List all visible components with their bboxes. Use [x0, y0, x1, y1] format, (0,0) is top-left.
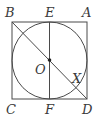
label-x: X — [71, 71, 82, 86]
label-c: C — [6, 102, 16, 117]
label-f: F — [44, 102, 55, 117]
center-point-o — [48, 58, 52, 62]
label-o: O — [35, 62, 46, 77]
geometry-diagram: B E A C F D O X — [0, 0, 97, 123]
label-a: A — [81, 5, 91, 20]
label-e: E — [44, 5, 55, 20]
label-d: D — [81, 102, 93, 117]
label-b: B — [4, 5, 15, 20]
